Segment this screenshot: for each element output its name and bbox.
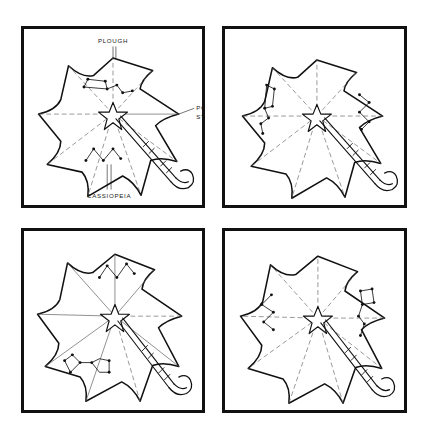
label-cassiopeia: CASSIOPEIA [87, 192, 131, 199]
cassiopeia-star [358, 111, 361, 114]
plough-star [273, 88, 276, 91]
cassiopeia-star [106, 264, 109, 267]
label-pole-star-line1: POLE [196, 104, 202, 111]
plough-star [108, 359, 111, 362]
label-pole-star-line2: STAR [196, 113, 202, 120]
plough-star [259, 122, 262, 125]
panel-bottom-right [222, 228, 407, 413]
plough-star [361, 303, 364, 306]
plough-star [357, 315, 360, 318]
cassiopeia-star [368, 120, 371, 123]
handle-hook-inner [174, 384, 187, 389]
handle-hook-inner [380, 180, 393, 185]
plough-star [271, 105, 274, 108]
plough-star [121, 91, 124, 94]
plough-star [267, 117, 270, 120]
plough-star [263, 107, 266, 110]
plough-star [83, 86, 86, 89]
plough-star [71, 353, 74, 356]
handle-hook [375, 172, 398, 191]
panel-2-drawing [225, 29, 404, 205]
cassiopeia-star [84, 159, 87, 162]
umbrella-canopy [39, 58, 179, 196]
plough-star [261, 132, 264, 135]
cassiopeia-star [270, 293, 273, 296]
plough-star [373, 301, 376, 304]
cassiopeia-star [260, 303, 263, 306]
plough-star [90, 361, 93, 364]
handle-hook-inner [176, 178, 189, 183]
plough-star [371, 288, 374, 291]
handle-hook [171, 170, 194, 189]
panel-top-right [222, 26, 407, 208]
handle-hook [372, 378, 395, 397]
cassiopeia-star [119, 157, 122, 160]
label-plough: PLOUGH [98, 37, 128, 44]
cassiopeia-star [115, 276, 118, 279]
plough-star [69, 371, 72, 374]
cassiopeia-star [262, 321, 265, 324]
panel-3-drawing [24, 231, 202, 410]
cassiopeia-star [102, 159, 105, 162]
plough-star [106, 88, 109, 91]
cassiopeia-star [272, 311, 275, 314]
pole-star-leader-line [179, 108, 194, 114]
panel-1-drawing: PLOUGH POLE STAR CASSIOPEIA [24, 29, 202, 205]
panel-4-drawing [225, 231, 404, 410]
cassiopeia-star [368, 101, 371, 104]
plough-star [104, 80, 107, 83]
plough-star [108, 371, 111, 374]
cassiopeia-star [112, 147, 115, 150]
plough-star [131, 89, 134, 92]
handle-hook-inner [377, 386, 390, 391]
plough-star [265, 84, 268, 87]
cassiopeia-star [360, 128, 363, 131]
cassiopeia-star [358, 93, 361, 96]
handle-hook [169, 376, 192, 395]
plough-star [63, 359, 66, 362]
panel-bottom-left [21, 228, 205, 413]
figure-root: PLOUGH POLE STAR CASSIOPEIA [0, 0, 429, 439]
cassiopeia-star [98, 276, 101, 279]
plough-star [359, 334, 362, 337]
plough-star [359, 290, 362, 293]
plough-star [79, 361, 82, 364]
cassiopeia-star [92, 147, 95, 150]
plough-star [115, 84, 118, 87]
panel-top-left: PLOUGH POLE STAR CASSIOPEIA [21, 26, 205, 208]
panel-grid: PLOUGH POLE STAR CASSIOPEIA [0, 0, 429, 439]
plough-star [86, 78, 89, 81]
cassiopeia-star [125, 262, 128, 265]
cassiopeia-star [133, 272, 136, 275]
plough-star [363, 322, 366, 325]
cassiopeia-star [272, 328, 275, 331]
